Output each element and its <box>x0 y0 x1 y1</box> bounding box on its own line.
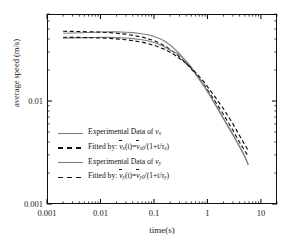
x-axis-label: time(s) <box>47 225 277 235</box>
legend-key-solid-line-icon <box>58 128 83 138</box>
legend-item-data-vy: Experimental Data of vy <box>58 155 258 170</box>
chart-legend: Experimental Data of vx Fitted by: vx(t)… <box>58 126 258 184</box>
figure-container: average speed (m/s) time(s) 0.0010.010.1… <box>0 0 305 245</box>
legend-label-fit-vy: Fitted by: vy(t)=vy0/(1+t/τy) <box>88 169 169 185</box>
legend-key-dashed-line-icon <box>58 172 83 182</box>
y-tick-label: 0.01 <box>9 96 43 106</box>
y-tick-label: 0.001 <box>9 199 43 209</box>
x-tick-label: 0.01 <box>80 208 120 218</box>
x-tick-label: 1 <box>187 208 227 218</box>
legend-label-fit-vx: Fitted by: vx(t)=vx0/(1+t/τx) <box>88 140 169 156</box>
legend-label-data-vy: Experimental Data of vy <box>88 155 161 171</box>
x-tick-label: 0.001 <box>27 208 67 218</box>
x-tick-label: 0.1 <box>134 208 174 218</box>
y-axis-label: average speed (m/s) <box>11 13 21 133</box>
legend-key-dashed-line-icon <box>58 143 83 153</box>
legend-item-fit-vy: Fitted by: vy(t)=vy0/(1+t/τy) <box>58 170 258 185</box>
legend-item-data-vx: Experimental Data of vx <box>58 126 258 141</box>
legend-key-solid-line-icon <box>58 157 83 167</box>
legend-item-fit-vx: Fitted by: vx(t)=vx0/(1+t/τx) <box>58 141 258 156</box>
legend-label-data-vx: Experimental Data of vx <box>88 125 161 141</box>
x-tick-label: 10 <box>241 208 281 218</box>
